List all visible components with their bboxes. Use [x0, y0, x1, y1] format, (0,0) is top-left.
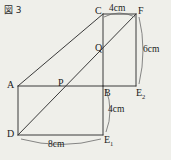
vertex-label-C: C — [95, 6, 102, 16]
dimension-label-top: 4cm — [109, 4, 125, 14]
vertex-label-B: B — [104, 88, 111, 98]
diagonal-A-C — [18, 14, 103, 86]
vertex-label-E2-sub: 2 — [142, 93, 145, 100]
vertex-label-F: F — [138, 6, 144, 16]
diagonal-D-F — [18, 14, 136, 135]
vertex-label-E2: E2 — [136, 88, 145, 101]
vertex-label-Q: Q — [95, 43, 102, 53]
vertex-label-P: P — [58, 78, 64, 88]
dimension-label-bottom: 8cm — [48, 140, 64, 150]
geometry-diagram-svg — [0, 0, 171, 160]
vertex-label-D: D — [7, 129, 14, 139]
vertex-label-E1-sub: 1 — [110, 140, 113, 147]
dimension-label-right: 6cm — [143, 45, 159, 55]
vertex-label-E1: E1 — [104, 135, 113, 148]
vertex-label-A: A — [7, 80, 14, 90]
dimension-label-middle: 4cm — [108, 105, 124, 115]
